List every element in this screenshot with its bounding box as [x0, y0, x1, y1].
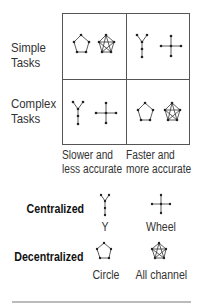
all-channel-network-icon [97, 34, 117, 56]
row-label-line: Tasks [11, 111, 56, 126]
wheel-network-icon [160, 35, 182, 57]
row-label-complex-tasks: Complex Tasks [11, 96, 56, 126]
all-channel-network-icon [163, 102, 183, 124]
legend-name-circle: Circle [90, 268, 122, 282]
row-label-line: Complex [11, 96, 56, 111]
matrix-horizontal-divider [62, 79, 190, 80]
column-label-faster: Faster and more accurate [126, 148, 191, 176]
circle-network-icon [96, 242, 114, 262]
row-label-line: Simple [11, 40, 46, 55]
all-channel-network-icon [151, 242, 169, 262]
y-network-icon [99, 193, 111, 217]
column-label-line: Slower and [62, 148, 122, 162]
legend-label-centralized: Centralized [27, 201, 84, 216]
row-label-simple-tasks: Simple Tasks [11, 40, 46, 70]
circle-network-icon [136, 102, 156, 124]
legend-label-decentralized: Decentralized [15, 249, 84, 264]
y-network-icon [71, 100, 85, 126]
wheel-network-icon [151, 194, 171, 214]
legend-name-y: Y [92, 220, 118, 234]
column-label-line: Faster and [126, 148, 191, 162]
column-label-slower: Slower and less accurate [62, 148, 122, 176]
row-label-line: Tasks [11, 55, 46, 70]
y-network-icon [135, 33, 149, 59]
circle-network-icon [72, 34, 92, 56]
column-label-line: more accurate [126, 162, 191, 176]
bottom-rule [12, 301, 191, 303]
wheel-network-icon [95, 102, 117, 124]
legend-name-all-channel: All channel [135, 268, 186, 282]
legend-name-wheel: Wheel [143, 220, 180, 234]
column-label-line: less accurate [62, 162, 122, 176]
